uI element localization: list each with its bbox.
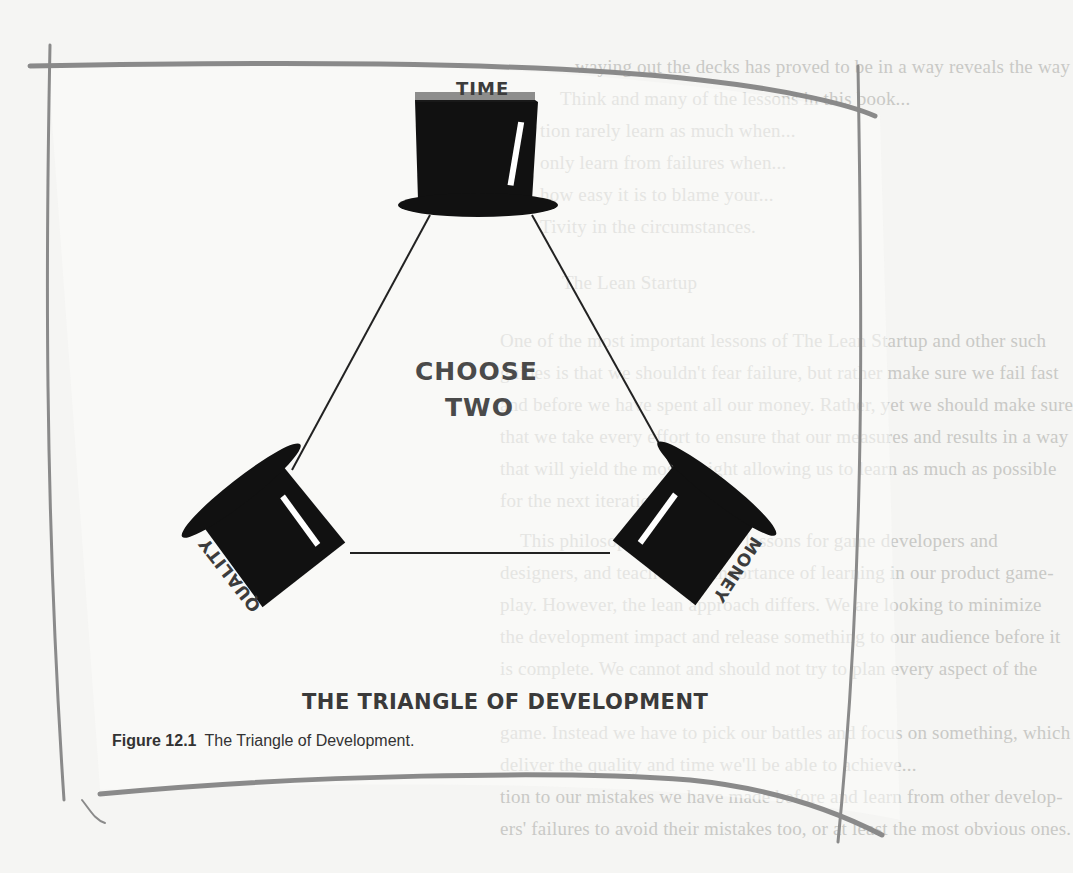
center-text-choose: CHOOSE: [415, 357, 538, 386]
vertex-label-time: TIME: [456, 78, 509, 99]
diagram-title: THE TRIANGLE OF DEVELOPMENT: [302, 690, 708, 714]
center-text-two: TWO: [445, 393, 514, 422]
figure-number: Figure 12.1: [112, 732, 196, 749]
figure-caption: Figure 12.1The Triangle of Development.: [112, 732, 414, 750]
figure-caption-text: The Triangle of Development.: [204, 732, 414, 749]
top-hat-icon: [398, 92, 558, 217]
